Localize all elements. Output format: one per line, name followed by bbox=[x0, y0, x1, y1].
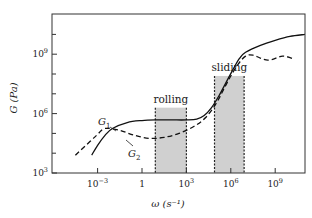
x-tick-label: 1 bbox=[139, 179, 145, 189]
y-axis-ticks: 103106109 bbox=[32, 34, 57, 178]
x-axis-label: ω (s⁻¹) bbox=[151, 198, 185, 209]
region-label-sliding: sliding bbox=[211, 61, 247, 73]
curve-label-G1: G1 bbox=[98, 116, 110, 130]
x-tick-label: 109 bbox=[267, 177, 283, 189]
x-tick-label: 103 bbox=[179, 177, 195, 189]
curve-label-G2: G2 bbox=[128, 148, 140, 162]
curve-G1 bbox=[92, 34, 305, 155]
region-rolling bbox=[155, 108, 186, 173]
y-tick-label: 106 bbox=[32, 107, 48, 119]
y-tick-label: 109 bbox=[32, 47, 48, 59]
x-tick-label: 106 bbox=[223, 177, 239, 189]
y-tick-label: 103 bbox=[32, 166, 48, 178]
x-tick-label: 10−3 bbox=[87, 177, 108, 189]
y-axis-label: G (Pa) bbox=[8, 82, 19, 113]
region-sliding bbox=[215, 76, 245, 173]
curves bbox=[75, 34, 304, 155]
region-label-rolling: rolling bbox=[153, 93, 188, 105]
shaded-regions bbox=[155, 76, 244, 173]
chart: 10−31103106109 103106109 rollingslidingG… bbox=[0, 0, 312, 218]
